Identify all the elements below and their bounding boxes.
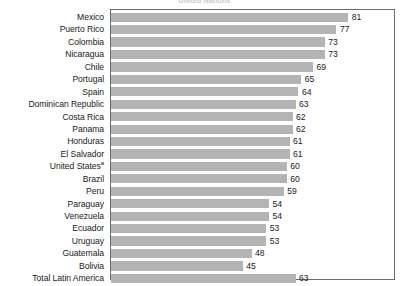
bar-value-label: 65 bbox=[301, 73, 314, 85]
bar bbox=[111, 224, 266, 233]
bar bbox=[111, 199, 269, 208]
bar-track: 62 bbox=[111, 123, 395, 135]
bar-value-label: 45 bbox=[243, 260, 256, 272]
bar-row: Puerto Rico77 bbox=[0, 23, 409, 35]
bar-value-label: 77 bbox=[336, 23, 349, 35]
bar-value-label: 61 bbox=[290, 135, 303, 147]
bar-row: Guatemala48 bbox=[0, 247, 409, 259]
bar-row: El Salvador61 bbox=[0, 148, 409, 160]
bar-track: 60 bbox=[111, 173, 395, 185]
bar-row: Dominican Republic63 bbox=[0, 98, 409, 110]
bar-row-label: Costa Rica bbox=[62, 111, 104, 123]
bar-track: 45 bbox=[111, 260, 395, 272]
bar-track: 73 bbox=[111, 48, 395, 60]
bar-track: 63 bbox=[111, 272, 395, 284]
bar-row-label: Mexico bbox=[77, 11, 104, 23]
bar bbox=[111, 25, 336, 34]
bar-value-label: 60 bbox=[287, 173, 300, 185]
bar-value-label: 73 bbox=[325, 36, 338, 48]
bar-value-label: 62 bbox=[293, 123, 306, 135]
bar-track: 69 bbox=[111, 61, 395, 73]
bar bbox=[111, 112, 293, 121]
bar bbox=[111, 75, 301, 84]
bar-row: Brazil60 bbox=[0, 173, 409, 185]
bar-value-label: 73 bbox=[325, 48, 338, 60]
bar-row: Total Latin America63 bbox=[0, 272, 409, 284]
bar bbox=[111, 174, 287, 183]
bar bbox=[111, 149, 290, 158]
bar-row: Mexico81 bbox=[0, 11, 409, 23]
bar-row-label: Venezuela bbox=[64, 210, 104, 222]
bar-row-label: Dominican Republic bbox=[28, 98, 104, 110]
bar-value-label: 64 bbox=[298, 86, 311, 98]
bar bbox=[111, 249, 252, 258]
bar-row-label: Paraguay bbox=[68, 198, 104, 210]
bar bbox=[111, 137, 290, 146]
bar-track: 64 bbox=[111, 86, 395, 98]
bar bbox=[111, 274, 296, 283]
bar-track: 62 bbox=[111, 111, 395, 123]
bar bbox=[111, 162, 287, 171]
bar-row: United Statesa60 bbox=[0, 160, 409, 172]
bar-value-label: 60 bbox=[287, 160, 300, 172]
bar-track: 53 bbox=[111, 222, 395, 234]
bar-row: Peru59 bbox=[0, 185, 409, 197]
bar-row-label: Portugal bbox=[72, 73, 104, 85]
bar-track: 53 bbox=[111, 235, 395, 247]
bar-value-label: 54 bbox=[269, 198, 282, 210]
bar-row-label: Bolivia bbox=[79, 260, 104, 272]
bar-row: Honduras61 bbox=[0, 135, 409, 147]
bar-row-label: El Salvador bbox=[61, 148, 104, 160]
bar bbox=[111, 125, 293, 134]
bar-track: 77 bbox=[111, 23, 395, 35]
bar-value-label: 63 bbox=[296, 98, 309, 110]
bar-row: Chile69 bbox=[0, 61, 409, 73]
bar-value-label: 53 bbox=[266, 222, 279, 234]
bar-row: Venezuela54 bbox=[0, 210, 409, 222]
bar-rows: Mexico81Puerto Rico77Colombia73Nicaragua… bbox=[0, 11, 409, 279]
bar-row: Ecuador53 bbox=[0, 222, 409, 234]
bar-row-label: Puerto Rico bbox=[60, 23, 104, 35]
bar-track: 63 bbox=[111, 98, 395, 110]
bar-value-label: 48 bbox=[252, 247, 265, 259]
bar-row-label: Colombia bbox=[68, 36, 104, 48]
bar-track: 81 bbox=[111, 11, 395, 23]
bar bbox=[111, 100, 296, 109]
bar-row-label: Nicaragua bbox=[65, 48, 104, 60]
bar bbox=[111, 236, 266, 245]
bar-track: 60 bbox=[111, 160, 395, 172]
bar bbox=[111, 261, 243, 270]
bar-track: 73 bbox=[111, 36, 395, 48]
bar-value-label: 81 bbox=[348, 11, 361, 23]
bar-value-label: 69 bbox=[313, 61, 326, 73]
bar-value-label: 62 bbox=[293, 111, 306, 123]
bar-track: 59 bbox=[111, 185, 395, 197]
bar bbox=[111, 187, 284, 196]
bar bbox=[111, 37, 325, 46]
bar bbox=[111, 212, 269, 221]
bar-row: Uruguay53 bbox=[0, 235, 409, 247]
bar-track: 61 bbox=[111, 148, 395, 160]
bar-row: Panama62 bbox=[0, 123, 409, 135]
bar-value-label: 59 bbox=[284, 185, 297, 197]
bar bbox=[111, 62, 313, 71]
bar-value-label: 63 bbox=[296, 272, 309, 284]
bar bbox=[111, 13, 348, 22]
bar-row-label: Total Latin America bbox=[32, 272, 104, 284]
bar-row-label: Peru bbox=[86, 185, 104, 197]
bar-row-label: Panama bbox=[72, 123, 104, 135]
bar bbox=[111, 50, 325, 59]
bar-row: Colombia73 bbox=[0, 36, 409, 48]
bar-row-label: Ecuador bbox=[72, 222, 104, 234]
bar-row: Bolivia45 bbox=[0, 260, 409, 272]
bar-value-label: 61 bbox=[290, 148, 303, 160]
bar-row-label: Uruguay bbox=[72, 235, 104, 247]
bar-track: 61 bbox=[111, 135, 395, 147]
bar-track: 48 bbox=[111, 247, 395, 259]
bar bbox=[111, 87, 298, 96]
bar-row: Nicaragua73 bbox=[0, 48, 409, 60]
footnote-marker: a bbox=[101, 160, 104, 166]
bar-track: 65 bbox=[111, 73, 395, 85]
bar-value-label: 53 bbox=[266, 235, 279, 247]
bar-row-label: Spain bbox=[82, 86, 104, 98]
